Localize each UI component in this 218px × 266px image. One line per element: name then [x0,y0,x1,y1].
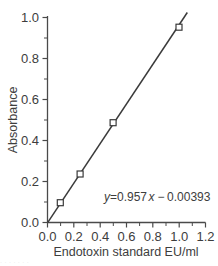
equation-equals-sign: = [110,190,117,204]
equation-x-symbol: x [148,190,156,204]
data-point-marker [176,24,182,30]
y-tick-label: 0.2 [21,174,39,189]
x-tick-label: 0.2 [65,229,83,244]
equation-minus-sign: − [158,190,165,204]
x-tick-label: 1.0 [170,229,188,244]
svg-text:y=0.957x−0.00393: y=0.957x−0.00393 [103,190,211,204]
x-tick-label: 0.8 [144,229,162,244]
y-tick-label: 0.8 [21,51,39,66]
regression-equation-annotation: y=0.957x−0.00393 [103,190,211,204]
equation-slope-value: 0.957 [117,190,147,204]
x-tick-label: 0.6 [117,229,135,244]
x-tick-label: 0.4 [91,229,109,244]
y-tick-label: 0.6 [21,92,39,107]
standard-curve-figure: 0.0 0.2 0.4 0.6 0.8 1.0 0.0 0.2 0.4 0.6 … [0,0,218,266]
x-tick-label: 1.2 [196,229,214,244]
y-tick-label: 0.0 [21,215,39,230]
y-tick-label: 0.4 [21,133,39,148]
data-point-marker [57,200,63,206]
x-axis-tick-labels: 0.0 0.2 0.4 0.6 0.8 1.0 1.2 [38,229,214,244]
data-point-marker [77,171,83,177]
chart-canvas: 0.0 0.2 0.4 0.6 0.8 1.0 0.0 0.2 0.4 0.6 … [0,0,218,266]
y-axis-title: Absorbance [6,87,20,154]
equation-intercept-value: 0.00393 [167,190,211,204]
x-tick-label: 0.0 [38,229,56,244]
cropped-caption-fragment: · · · · · · · [0,259,218,266]
x-axis-title: Endotoxin standard EU/ml [53,245,198,259]
y-tick-label: 1.0 [21,10,39,25]
data-point-marker [110,120,116,126]
